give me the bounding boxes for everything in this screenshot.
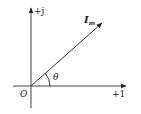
phasor-label-sub: m	[89, 19, 95, 26]
angle-arc	[45, 73, 50, 86]
phasor-diagram: +j +1 O θ Im	[0, 0, 141, 114]
origin-label: O	[20, 89, 28, 99]
imaginary-axis-label: +j	[34, 6, 44, 16]
phasor-arrow	[31, 23, 102, 86]
angle-label: θ	[53, 72, 59, 82]
real-axis-label: +1	[112, 89, 125, 99]
phasor-label: Im	[83, 14, 95, 26]
